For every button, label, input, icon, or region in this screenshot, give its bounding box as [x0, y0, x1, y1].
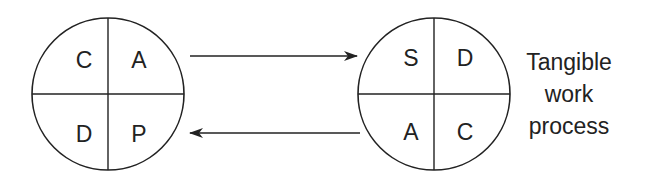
- side-label-line-3: process: [529, 113, 610, 139]
- left-quadrant-top-right: A: [131, 47, 147, 73]
- left-quadrant-bottom-left: D: [76, 121, 93, 147]
- tangible-work-process-label: Tangible work process: [526, 49, 612, 139]
- right-quadrant-bottom-right: C: [457, 119, 474, 145]
- left-quadrant-top-left: C: [76, 47, 93, 73]
- left-cycle: C A D P: [32, 18, 184, 170]
- right-cycle: S D A C: [358, 18, 510, 170]
- side-label-line-2: work: [544, 81, 594, 107]
- right-quadrant-top-right: D: [457, 45, 474, 71]
- pdca-sdca-diagram: C A D P S D A C Tangible work process: [0, 0, 648, 183]
- left-quadrant-bottom-right: P: [131, 121, 146, 147]
- right-quadrant-top-left: S: [403, 45, 418, 71]
- side-label-line-1: Tangible: [526, 49, 612, 75]
- right-quadrant-bottom-left: A: [403, 119, 419, 145]
